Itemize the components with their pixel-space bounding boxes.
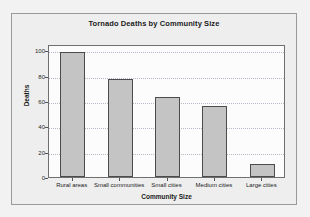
- bar: [108, 79, 133, 177]
- y-tick-label: 60: [38, 99, 45, 105]
- x-tick-mark: [119, 178, 120, 181]
- x-tick-mark: [261, 178, 262, 181]
- bar: [250, 164, 275, 177]
- plot-frame: [48, 45, 285, 178]
- y-tick-label: 80: [38, 74, 45, 80]
- x-tick-label: Small communities: [94, 182, 144, 188]
- y-tick-label: 40: [38, 124, 45, 130]
- x-axis-title: Community Size: [48, 193, 285, 200]
- figure-canvas: Tornado Deaths by Community Size Deaths …: [0, 0, 310, 217]
- bar: [60, 52, 85, 177]
- x-tick-mark: [167, 178, 168, 181]
- x-tick-label: Medium cities: [196, 182, 233, 188]
- plot-area: [49, 46, 284, 177]
- chart-panel: Tornado Deaths by Community Size Deaths …: [11, 13, 297, 205]
- y-tick-label: 100: [35, 48, 45, 54]
- bar: [202, 106, 227, 177]
- y-axis-tick-labels: 020406080100: [12, 45, 45, 178]
- x-tick-label: Small cities: [151, 182, 181, 188]
- x-tick-mark: [214, 178, 215, 181]
- x-tick-mark: [72, 178, 73, 181]
- y-tick-label: 20: [38, 150, 45, 156]
- chart-title: Tornado Deaths by Community Size: [12, 19, 296, 28]
- bar: [155, 97, 180, 177]
- x-tick-label: Large cities: [246, 182, 277, 188]
- x-tick-label: Rural areas: [56, 182, 87, 188]
